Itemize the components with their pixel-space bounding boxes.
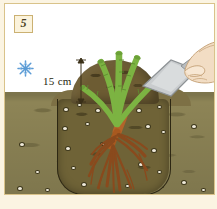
gravel-dot <box>65 146 71 151</box>
figure-caption <box>12 196 162 205</box>
hand-with-trowel-icon <box>141 40 215 106</box>
gravel-dot <box>19 142 25 147</box>
step-number-badge: 5 <box>14 15 33 33</box>
gravel-dot <box>191 124 197 129</box>
dimension-arrow <box>75 58 87 104</box>
snowflake-icon <box>17 60 34 77</box>
dimension-label: 15 cm <box>43 75 72 87</box>
gravel-dot <box>17 186 23 191</box>
step-number-text: 5 <box>15 16 32 31</box>
hand-icon <box>185 42 215 83</box>
illustration-panel: 15 cm 5 <box>0 0 217 209</box>
image-frame: 15 cm 5 <box>4 3 215 195</box>
gravel-dot <box>181 180 187 185</box>
